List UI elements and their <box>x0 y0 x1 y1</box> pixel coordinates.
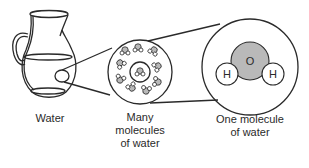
molecule-cluster <box>114 44 163 95</box>
atom-h-label: H <box>267 68 279 81</box>
atom-h-label: H <box>221 68 233 81</box>
label-one-molecule: One molecule of water <box>205 113 295 139</box>
atom-o-label: O <box>244 55 256 68</box>
label-water: Water <box>20 112 80 125</box>
zoom-line <box>64 82 110 95</box>
pitcher-icon <box>13 11 76 98</box>
water-diagram: O H H Water Many molecules of water One … <box>0 0 309 168</box>
label-many-molecules: Many molecules of water <box>105 111 175 150</box>
